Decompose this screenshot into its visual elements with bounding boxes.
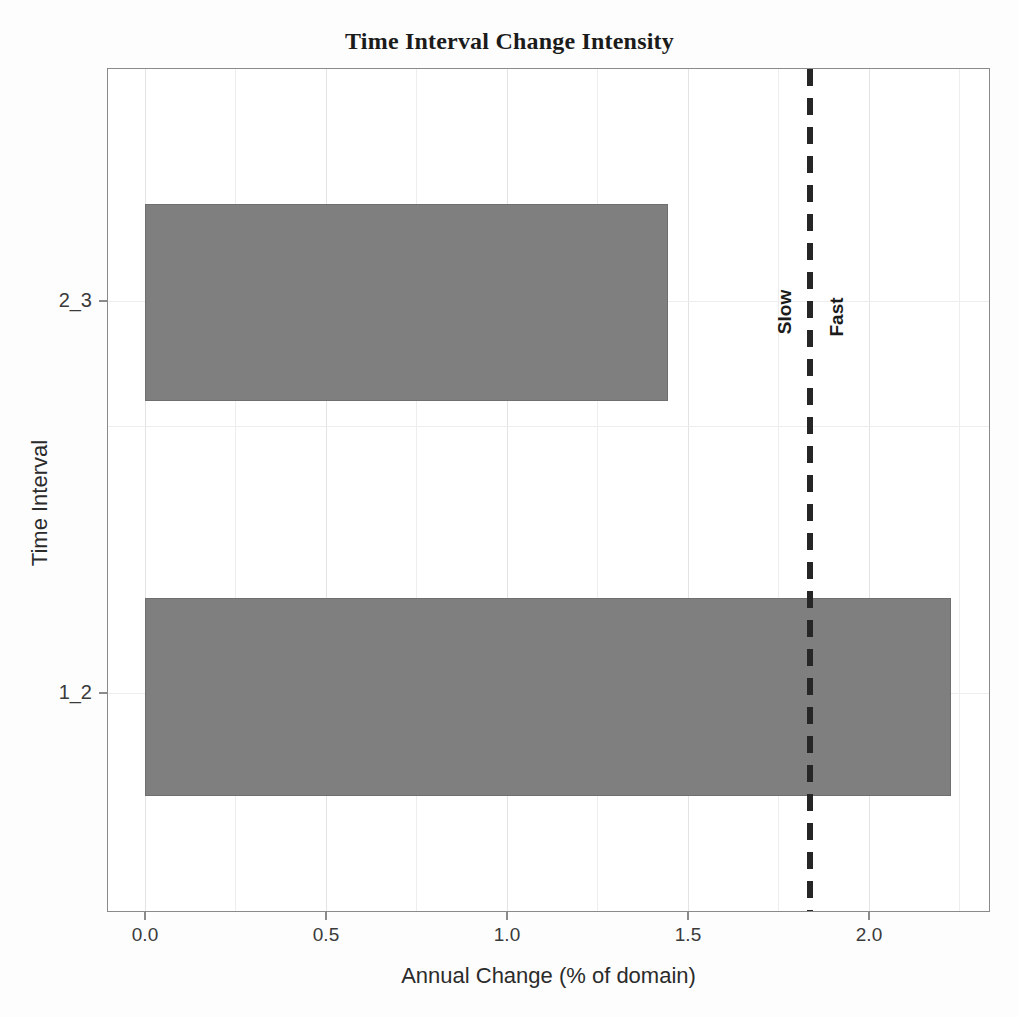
xtick-label-1: 0.5 — [313, 924, 339, 946]
chart-title: Time Interval Change Intensity — [0, 28, 1019, 55]
gridline-x-2.25 — [959, 69, 960, 911]
xtick-mark-3 — [687, 912, 689, 920]
gridline-y-minor-upper — [108, 426, 989, 427]
plot-panel: Slow Fast — [107, 68, 990, 912]
xtick-label-0: 0.0 — [132, 924, 158, 946]
ytick-mark-2_3 — [99, 300, 107, 302]
xtick-mark-0 — [144, 912, 146, 920]
threshold-label-slow: Slow — [774, 290, 796, 334]
ytick-label-2_3: 2_3 — [0, 289, 92, 312]
xtick-label-3: 1.5 — [675, 924, 701, 946]
y-axis-title: Time Interval — [27, 403, 53, 603]
xtick-label-2: 1.0 — [494, 924, 520, 946]
x-axis-title: Annual Change (% of domain) — [107, 963, 990, 989]
xtick-mark-1 — [325, 912, 327, 920]
xtick-mark-2 — [506, 912, 508, 920]
xtick-mark-4 — [868, 912, 870, 920]
chart-figure: Time Interval Change Intensity Slow Fast… — [0, 0, 1019, 1017]
threshold-dashed-line — [807, 69, 813, 911]
threshold-label-fast: Fast — [826, 297, 848, 336]
xtick-label-4: 2.0 — [856, 924, 882, 946]
ytick-mark-1_2 — [99, 692, 107, 694]
bar-2_3[interactable] — [145, 204, 668, 401]
ytick-label-1_2: 1_2 — [0, 681, 92, 704]
bar-1_2[interactable] — [145, 598, 951, 796]
